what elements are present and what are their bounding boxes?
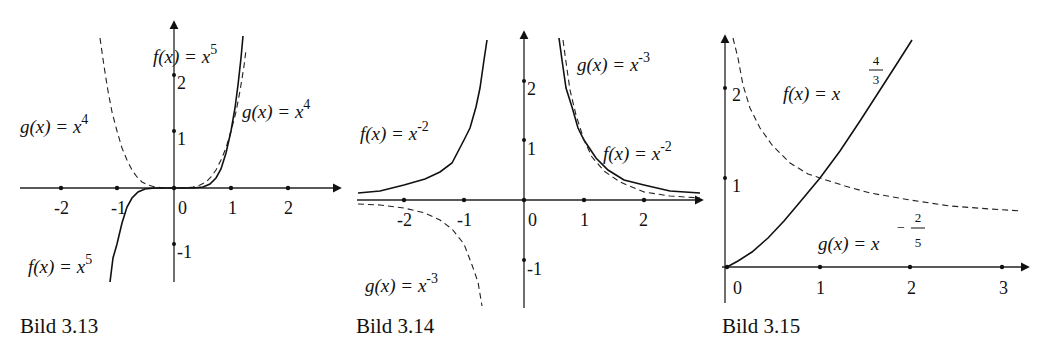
svg-text:4: 4	[873, 53, 880, 68]
y-tick-label: 2	[527, 79, 536, 99]
caption: Bild 3.15	[722, 314, 800, 338]
x-tick-label: 1	[816, 278, 825, 298]
svg-text:2: 2	[915, 210, 922, 225]
label-f-x5-top: f(x) = x5	[153, 42, 217, 68]
x-tick-label: 0	[528, 210, 537, 230]
plot-bild-3-15: 0 1 2 3 2 1 f(x) = x 4 3 g(x) = x − 2 5 …	[722, 36, 1028, 338]
x-tick-label: 1	[228, 198, 237, 218]
x-tick-label: 3	[999, 278, 1008, 298]
y-tick-label: 1	[527, 139, 536, 159]
label-f-x4-3: f(x) = x	[783, 83, 841, 105]
plot-bild-3-14: -2 -1 0 1 2 2 1 -1 f(x) = x-2 f(x) = x-2…	[356, 32, 702, 338]
curve-f-xm2-left	[358, 40, 487, 193]
y-tick-label: 1	[732, 176, 741, 196]
y-tick-label: 2	[732, 85, 741, 105]
x-tick-label: 2	[907, 278, 916, 298]
label-g-x4-right: g(x) = x4	[242, 97, 310, 123]
plot-bild-3-13: -2 -1 0 1 2 2 1 -1 f(x) = x5 g(x) = x4 g…	[20, 22, 340, 338]
exponent-fraction-minus-2-5: − 2 5	[897, 210, 925, 250]
label-f-xm2-left: f(x) = x-2	[360, 119, 429, 145]
y-tick-label: -1	[177, 242, 192, 262]
x-tick-label: -2	[397, 210, 412, 230]
label-f-x5-bottom: f(x) = x5	[28, 252, 92, 278]
label-f-xm2-right: f(x) = x-2	[603, 139, 672, 165]
caption: Bild 3.13	[20, 314, 98, 338]
svg-text:3: 3	[873, 72, 880, 87]
x-tick-label: 0	[178, 198, 187, 218]
x-tick-label: 2	[284, 198, 293, 218]
x-tick-label: 1	[580, 210, 589, 230]
label-g-xm2-5: g(x) = x	[818, 233, 880, 255]
label-g-xm3-bottom: g(x) = x-3	[365, 271, 438, 297]
y-tick-label: -1	[527, 259, 542, 279]
label-g-xm3-top: g(x) = x-3	[577, 50, 650, 76]
label-g-x4-left: g(x) = x4	[20, 112, 88, 138]
y-tick-label: 2	[177, 73, 186, 93]
exponent-fraction-4-3: 4 3	[869, 53, 883, 87]
figure-canvas: -2 -1 0 1 2 2 1 -1 f(x) = x5 g(x) = x4 g…	[0, 0, 1042, 350]
caption: Bild 3.14	[356, 314, 435, 338]
svg-text:5: 5	[915, 235, 922, 250]
x-tick-label: -2	[54, 198, 69, 218]
x-tick-label: 2	[639, 210, 648, 230]
svg-text:−: −	[897, 220, 905, 235]
x-tick-label: 0	[733, 278, 742, 298]
y-tick-label: 1	[177, 129, 186, 149]
x-tick-label: -1	[457, 210, 472, 230]
